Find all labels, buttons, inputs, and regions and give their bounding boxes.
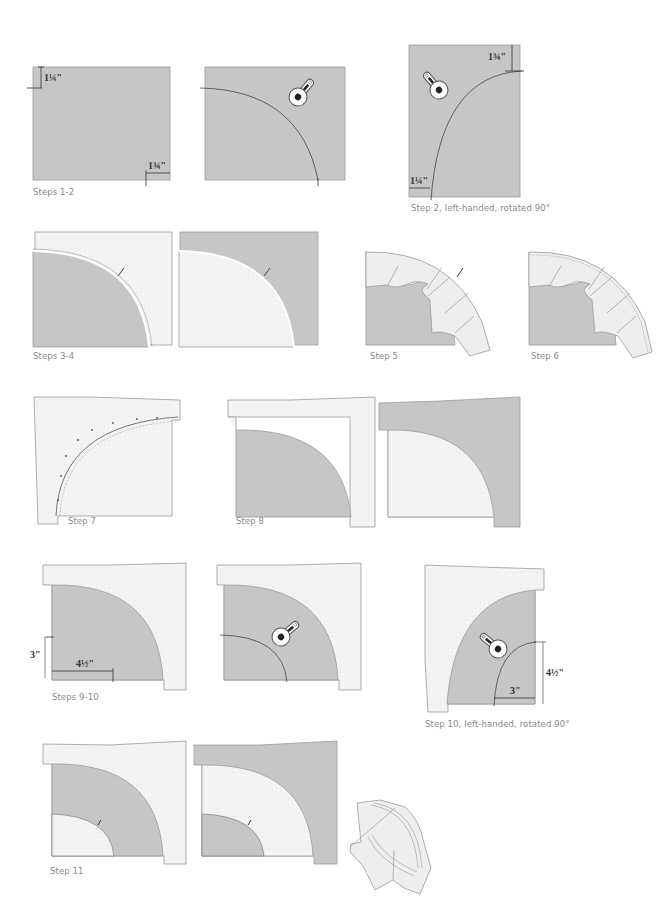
caption-step-11: Step 11 (50, 866, 84, 876)
caption-steps-9-10: Steps 9-10 (52, 692, 99, 702)
step-10-left-handed-panel: 4½" 3" (425, 565, 564, 712)
caption-step-5: Step 5 (370, 351, 398, 361)
caption-step-6: Step 6 (531, 351, 559, 361)
step-5-panel (366, 251, 490, 356)
measurement-label: 1¼" (44, 72, 62, 83)
measurement-label: 4½" (76, 658, 94, 669)
measurement-label: 1¼" (410, 175, 428, 186)
caption-steps-3-4: Steps 3-4 (33, 351, 74, 361)
step-11-panel (43, 741, 186, 864)
step-11-second-panel (194, 741, 337, 864)
finished-corner-piece (350, 800, 431, 894)
caption-steps-1-2: Steps 1-2 (33, 187, 74, 197)
step-10-panel (217, 563, 361, 690)
step-6-panel (529, 252, 652, 358)
step-8-panel (228, 397, 375, 527)
illustration-canvas: 1¼" 1¾" 1¾" 1¼" (0, 0, 671, 912)
measurement-label: 4½" (546, 667, 564, 678)
measurement-label: 1¾" (148, 160, 166, 171)
step-2-panel (200, 67, 345, 186)
step-3-panel (33, 232, 172, 347)
step-9-panel: 3" 4½" (30, 563, 186, 690)
caption-step-8: Step 8 (236, 516, 264, 526)
measurement-label: 3" (510, 685, 521, 696)
measurement-label: 3" (30, 649, 41, 660)
step-2-left-handed-panel: 1¾" 1¼" (409, 45, 524, 200)
step-4-panel (179, 232, 318, 347)
step-8-second-panel (379, 397, 520, 527)
measurement-label: 1¾" (488, 51, 506, 62)
caption-step-2-left-handed: Step 2, left-handed, rotated 90° (411, 203, 550, 213)
step-7-panel (34, 397, 180, 524)
caption-step-7: Step 7 (68, 516, 96, 526)
caption-step-10-left-handed: Step 10, left-handed, rotated 90° (425, 719, 570, 729)
step-1-panel: 1¼" 1¾" (27, 67, 170, 186)
